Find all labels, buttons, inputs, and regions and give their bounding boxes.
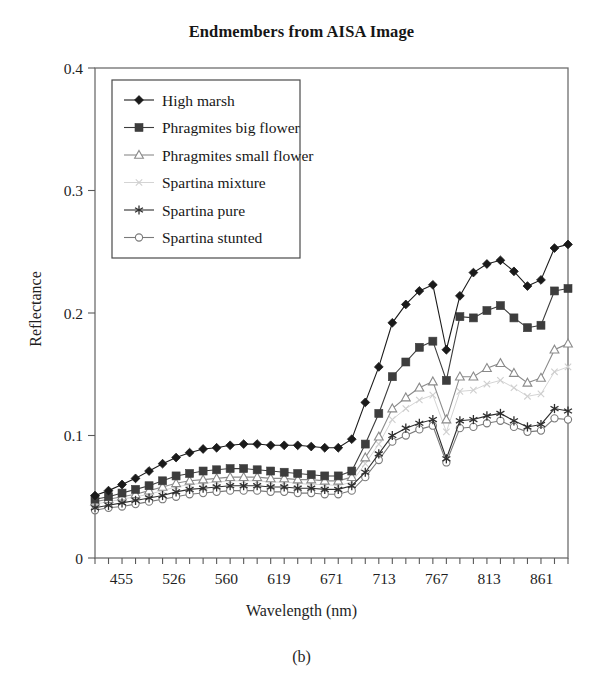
data-point-marker	[135, 234, 142, 241]
legend-item-label: Spartina mixture	[162, 174, 266, 191]
y-axis-label: Reflectance	[27, 229, 45, 389]
x-axis-tick-label: 671	[320, 570, 343, 587]
data-point-marker	[253, 466, 261, 474]
data-point-marker	[135, 124, 143, 132]
data-point-marker	[415, 383, 424, 391]
data-point-marker	[334, 443, 343, 452]
data-point-marker	[415, 343, 423, 351]
data-point-marker	[320, 443, 329, 452]
data-point-marker	[145, 482, 153, 490]
data-point-marker	[361, 398, 370, 407]
x-axis-tick-label: 455	[110, 570, 134, 587]
data-point-marker	[118, 480, 127, 489]
data-point-marker	[239, 473, 248, 481]
data-point-marker	[374, 363, 383, 372]
y-axis-tick-label: 0.2	[64, 305, 83, 322]
data-point-marker	[172, 472, 180, 480]
data-point-marker	[334, 472, 342, 480]
data-point-marker	[470, 423, 477, 430]
data-point-marker	[496, 302, 504, 310]
data-point-marker	[388, 404, 397, 412]
data-point-marker	[510, 314, 518, 322]
y-axis-tick-label: 0.3	[64, 182, 84, 199]
data-point-marker	[537, 373, 546, 381]
data-point-marker	[253, 440, 262, 449]
y-axis-tick-label: 0.1	[64, 427, 83, 444]
chart-legend: High marshPhragmites big flowerPhragmite…	[112, 80, 314, 258]
x-axis-tick-label: 526	[162, 570, 186, 587]
data-point-marker	[293, 441, 302, 450]
figure-container: Endmembers from AISA Image 00.10.20.30.4…	[0, 0, 603, 690]
data-point-marker	[442, 376, 450, 384]
data-point-marker	[347, 435, 356, 444]
data-point-marker	[294, 469, 302, 477]
data-point-marker	[537, 321, 545, 329]
data-point-marker	[212, 443, 221, 452]
x-axis-label: Wavelength (nm)	[0, 602, 603, 620]
data-point-marker	[550, 345, 559, 353]
data-point-marker	[497, 417, 504, 424]
y-axis-tick-label: 0	[75, 550, 83, 567]
data-point-marker	[483, 420, 490, 427]
series-high-marsh	[91, 240, 573, 500]
legend-item-label: Spartina stunted	[162, 229, 263, 246]
data-point-marker	[402, 432, 409, 439]
data-point-marker	[239, 440, 248, 449]
series-line	[95, 289, 568, 500]
data-point-marker	[159, 477, 167, 485]
data-point-marker	[455, 291, 464, 300]
data-point-marker	[401, 393, 410, 401]
data-point-marker	[402, 358, 410, 366]
data-point-marker	[483, 260, 492, 269]
x-axis-tick-label: 813	[478, 570, 502, 587]
data-point-marker	[469, 372, 478, 380]
data-point-marker	[118, 489, 126, 497]
legend-item-label: Phragmites big flower	[162, 119, 301, 136]
data-point-marker	[280, 468, 288, 476]
data-point-marker	[564, 240, 573, 249]
data-point-marker	[564, 416, 571, 423]
data-point-marker	[185, 448, 194, 457]
data-point-marker	[483, 307, 491, 315]
figure-caption: (b)	[0, 648, 603, 666]
data-point-marker	[226, 441, 235, 450]
data-point-marker	[307, 471, 315, 479]
data-point-marker	[213, 466, 221, 474]
data-point-marker	[267, 467, 275, 475]
data-point-marker	[523, 324, 531, 332]
data-point-marker	[442, 345, 451, 354]
data-point-marker	[307, 442, 316, 451]
data-point-marker	[428, 377, 437, 385]
x-axis-tick-label: 767	[425, 570, 449, 587]
data-point-marker	[469, 314, 477, 322]
data-point-marker	[550, 287, 558, 295]
data-point-marker	[428, 280, 437, 289]
data-point-marker	[375, 409, 383, 417]
data-point-marker	[429, 337, 437, 345]
data-point-marker	[199, 467, 207, 475]
data-point-marker	[551, 415, 558, 422]
data-point-marker	[455, 372, 464, 380]
data-series-group	[91, 240, 573, 514]
x-axis-tick-label: 619	[267, 570, 291, 587]
data-point-marker	[186, 469, 194, 477]
data-point-marker	[388, 373, 396, 381]
y-axis-tick-label: 0.4	[64, 60, 84, 77]
data-point-marker	[348, 467, 356, 475]
data-point-marker	[266, 441, 275, 450]
data-point-marker	[388, 318, 397, 327]
series-line	[95, 244, 568, 495]
data-point-marker	[199, 445, 208, 454]
data-point-marker	[240, 465, 248, 473]
data-point-marker	[469, 268, 478, 277]
data-point-marker	[442, 415, 451, 423]
data-point-marker	[131, 474, 140, 483]
legend-item-label: Spartina pure	[162, 202, 245, 219]
data-point-marker	[496, 359, 505, 367]
data-point-marker	[456, 313, 464, 321]
data-point-marker	[321, 472, 329, 480]
x-axis-tick-label: 560	[215, 570, 239, 587]
data-point-marker	[226, 465, 234, 473]
data-point-marker	[172, 453, 181, 462]
data-point-marker	[374, 432, 383, 440]
